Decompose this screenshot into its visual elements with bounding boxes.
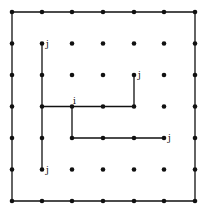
- grid-dot: [40, 199, 45, 204]
- grid-dot: [70, 136, 75, 141]
- grid-dot: [10, 73, 15, 78]
- grid-dot: [10, 167, 15, 172]
- grid-dot: [162, 73, 167, 78]
- vertex-label-j: j: [137, 70, 141, 80]
- grid-dot: [132, 199, 137, 204]
- lower-branch-line: [72, 107, 164, 139]
- grid-dot: [40, 167, 45, 172]
- grid-dot: [101, 73, 106, 78]
- grid-dot: [40, 10, 45, 15]
- grid-dot: [40, 41, 45, 46]
- grid-dot: [193, 41, 198, 46]
- grid-dot: [132, 104, 137, 109]
- grid-dot: [162, 199, 167, 204]
- grid-dot: [162, 10, 167, 15]
- grid-dot: [101, 104, 106, 109]
- vertex-label-i: i: [73, 96, 76, 106]
- grid-dot: [10, 10, 15, 15]
- grid-dot: [132, 136, 137, 141]
- grid-dot: [40, 73, 45, 78]
- grid-dot: [10, 136, 15, 141]
- grid-dot: [193, 73, 198, 78]
- grid-dot: [193, 199, 198, 204]
- vertex-label-j: j: [45, 39, 49, 49]
- grid-dot: [132, 10, 137, 15]
- grid-dot: [70, 199, 75, 204]
- grid-dot: [162, 41, 167, 46]
- grid-dot: [101, 167, 106, 172]
- grid-dot: [132, 73, 137, 78]
- grid-dot: [193, 167, 198, 172]
- grid-dot: [101, 199, 106, 204]
- lattice-path-diagram: jjijj: [0, 0, 201, 220]
- grid-dot: [132, 167, 137, 172]
- vertex-label-j: j: [167, 133, 171, 143]
- grid-dot: [101, 136, 106, 141]
- grid-dot: [162, 167, 167, 172]
- grid-dot: [70, 41, 75, 46]
- grid-dots: [10, 10, 198, 204]
- grid-dot: [70, 73, 75, 78]
- grid-dot: [10, 104, 15, 109]
- vertex-label-j: j: [45, 165, 49, 175]
- middle-horizontal-to-up-line: [42, 75, 134, 107]
- grid-dot: [162, 136, 167, 141]
- grid-dot: [40, 136, 45, 141]
- grid-dot: [162, 104, 167, 109]
- grid-dot: [193, 136, 198, 141]
- grid-dot: [193, 104, 198, 109]
- grid-dot: [40, 104, 45, 109]
- grid-dot: [70, 167, 75, 172]
- grid-dot: [70, 10, 75, 15]
- grid-dot: [10, 199, 15, 204]
- grid-dot: [101, 41, 106, 46]
- grid-dot: [132, 41, 137, 46]
- grid-dot: [10, 41, 15, 46]
- grid-dot: [193, 10, 198, 15]
- grid-dot: [101, 10, 106, 15]
